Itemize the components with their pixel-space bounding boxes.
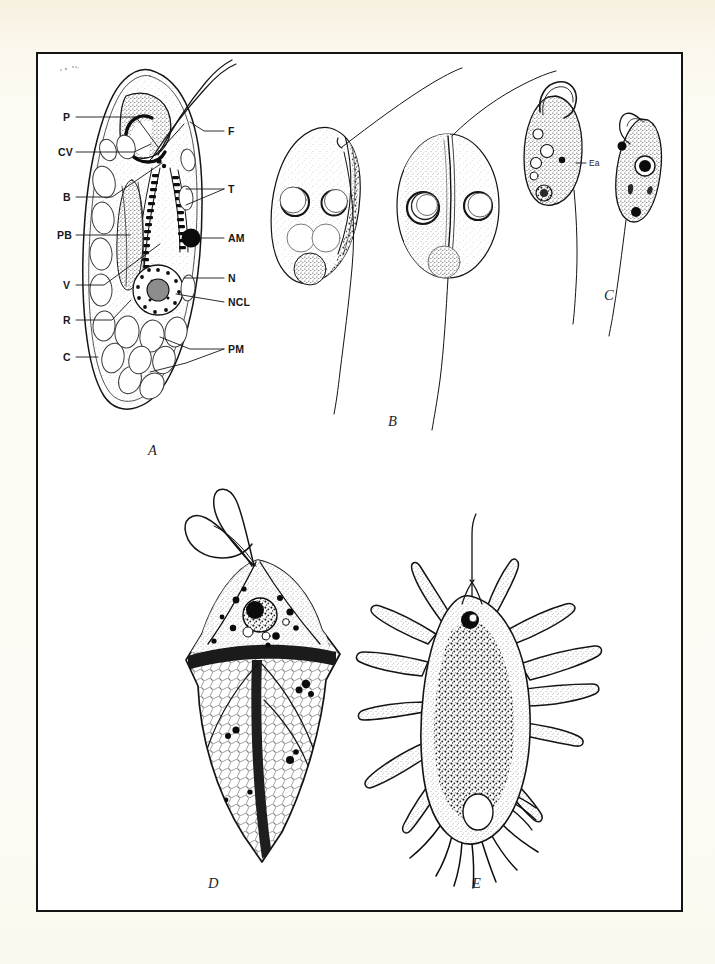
label-pm: PM (228, 344, 244, 355)
label-n: N (228, 273, 236, 284)
label-ea: Ea (589, 159, 599, 168)
plate-page: P CV B PB V R C F T AM N NCL PM Ea A B C… (0, 0, 715, 964)
panel-letter-b: B (388, 414, 397, 429)
label-cv: CV (58, 147, 73, 158)
panel-letter-d: D (208, 876, 218, 891)
scan-artifact (58, 64, 84, 73)
label-t: T (228, 184, 235, 195)
label-f: F (228, 126, 235, 137)
label-am: AM (228, 233, 245, 244)
plate-frame-border (36, 52, 683, 912)
label-c: C (63, 352, 71, 363)
panel-letter-e: E (472, 876, 481, 891)
label-ncl: NCL (228, 297, 250, 308)
panel-letter-a: A (148, 443, 157, 458)
label-r: R (63, 315, 71, 326)
label-pb: PB (57, 230, 72, 241)
panel-letter-c: C (604, 288, 614, 303)
label-b: B (63, 192, 71, 203)
label-p: P (63, 112, 70, 123)
label-v: V (63, 280, 70, 291)
